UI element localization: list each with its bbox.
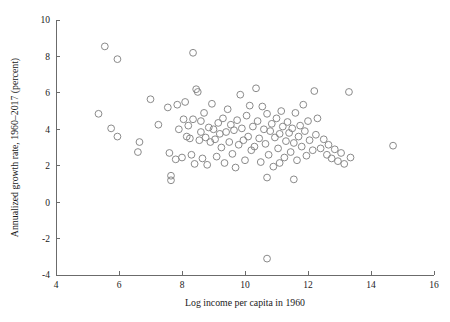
scatter-point <box>278 108 285 115</box>
scatter-point <box>262 140 269 147</box>
y-tick-label: 2 <box>45 161 50 171</box>
scatter-point <box>256 135 263 142</box>
x-tick-label: 12 <box>303 280 313 290</box>
scatter-point <box>190 49 197 56</box>
scatter-point <box>191 160 198 167</box>
scatter-point <box>294 157 301 164</box>
scatter-point <box>290 140 297 147</box>
x-tick-label: 6 <box>117 280 122 290</box>
scatter-point <box>221 160 228 167</box>
scatter-plot-figure: 46810121416 -4-20246810 Log income per c… <box>0 0 450 322</box>
scatter-point <box>198 118 205 125</box>
scatter-point <box>301 128 308 135</box>
scatter-point <box>155 121 162 128</box>
scatter-point <box>264 174 271 181</box>
scatter-point <box>240 137 247 144</box>
scatter-point <box>199 155 206 162</box>
y-tick-label: -2 <box>42 234 50 244</box>
y-tick-label: 10 <box>41 15 51 25</box>
scatter-point <box>314 115 321 122</box>
scatter-point <box>287 149 294 156</box>
scatter-point <box>328 155 335 162</box>
scatter-point <box>253 85 260 92</box>
scatter-point <box>218 144 225 151</box>
scatter-point <box>166 150 173 157</box>
x-tick-label: 14 <box>366 280 376 290</box>
x-tick-label: 16 <box>429 280 439 290</box>
scatter-point <box>246 102 253 109</box>
scatter-point <box>101 43 108 50</box>
scatter-point <box>147 96 154 103</box>
scatter-point <box>264 255 271 262</box>
scatter-point <box>272 134 279 141</box>
scatter-point <box>223 129 230 136</box>
scatter-point <box>261 126 268 133</box>
scatter-point <box>295 133 302 140</box>
x-tick-label: 8 <box>180 280 185 290</box>
scatter-point <box>324 151 331 158</box>
scatter-point <box>196 137 203 144</box>
scatter-point <box>234 117 241 124</box>
scatter-point <box>338 150 345 157</box>
scatter-point <box>209 100 216 107</box>
scatter-point <box>325 141 332 148</box>
y-tick-label: -4 <box>42 270 50 280</box>
scatter-point <box>273 115 280 122</box>
scatter-point <box>164 104 171 111</box>
scatter-point <box>341 160 348 167</box>
scatter-point <box>174 101 181 108</box>
scatter-point <box>136 139 143 146</box>
scatter-point <box>172 156 179 163</box>
scatter-point <box>303 152 310 159</box>
scatter-point <box>298 143 305 150</box>
scatter-point <box>292 109 299 116</box>
y-tick-label: 0 <box>45 198 50 208</box>
scatter-point <box>175 126 182 133</box>
x-tick-label: 4 <box>54 280 59 290</box>
scatter-point <box>188 151 195 158</box>
scatter-point <box>306 137 313 144</box>
scatter-point <box>264 110 271 117</box>
scatter-point <box>179 154 186 161</box>
axes-group <box>56 20 434 275</box>
y-axis-ticks: -4-20246810 <box>41 15 61 280</box>
scatter-point <box>346 89 353 96</box>
scatter-point <box>114 133 121 140</box>
scatter-point <box>284 119 291 126</box>
scatter-point <box>238 125 245 132</box>
y-tick-label: 4 <box>45 125 50 135</box>
scatter-point <box>237 91 244 98</box>
x-axis-ticks: 46810121416 <box>54 271 439 290</box>
x-axis-title: Log income per capita in 1960 <box>185 297 305 308</box>
y-axis-title: Annualized growth rate, 1960–2017 (perce… <box>9 58 21 237</box>
scatter-point <box>190 116 197 123</box>
scatter-point <box>267 128 274 135</box>
scatter-point <box>108 125 115 132</box>
y-tick-label: 6 <box>45 88 50 98</box>
scatter-point <box>114 56 121 63</box>
scatter-point <box>226 139 233 146</box>
scatter-point <box>216 130 223 137</box>
scatter-point <box>231 127 238 134</box>
scatter-point <box>275 145 282 152</box>
scatter-point <box>276 160 283 167</box>
scatter-point <box>135 149 142 156</box>
data-points-group <box>95 43 396 262</box>
scatter-point <box>182 99 189 106</box>
scatter-point <box>204 161 211 168</box>
scatter-point <box>276 130 283 137</box>
scatter-point <box>331 146 338 153</box>
scatter-point <box>305 118 312 125</box>
scatter-point <box>270 163 277 170</box>
scatter-point <box>232 164 239 171</box>
scatter-point <box>168 177 175 184</box>
scatter-point <box>254 118 261 125</box>
scatter-point <box>347 154 354 161</box>
scatter-point <box>224 106 231 113</box>
scatter-point <box>290 176 297 183</box>
scatter-point <box>309 147 316 154</box>
plot-canvas: 46810121416 -4-20246810 Log income per c… <box>0 0 450 322</box>
scatter-point <box>265 151 272 158</box>
scatter-point <box>95 110 102 117</box>
scatter-point <box>220 115 227 122</box>
